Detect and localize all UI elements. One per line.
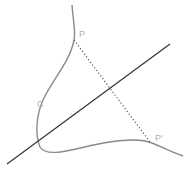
dotted-segment [74, 40, 150, 142]
label-p: P [79, 29, 85, 39]
label-p-prime: P' [155, 133, 163, 143]
diagram-canvas: P C P' [0, 0, 185, 182]
label-c: C [37, 99, 44, 109]
